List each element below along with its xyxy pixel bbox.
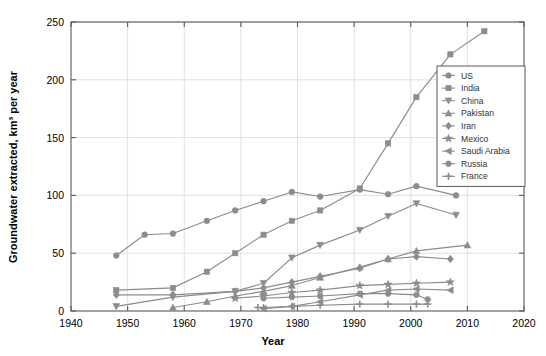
data-point-circle <box>385 191 391 197</box>
data-point-circle <box>113 253 119 259</box>
legend-label: France <box>461 171 488 181</box>
legend-label: Iran <box>461 121 476 131</box>
data-point-circle <box>232 208 238 214</box>
data-point-circle <box>414 183 420 189</box>
legend-label: Saudi Arabia <box>461 146 510 156</box>
chart-figure: 050100150200250 194019501960197019801990… <box>0 0 546 356</box>
data-point-hexagon <box>260 296 266 301</box>
legend-label: Russia <box>461 159 487 169</box>
data-point-hexagon <box>289 294 295 299</box>
data-point-hexagon <box>385 291 391 296</box>
legend-label: US <box>461 71 473 81</box>
data-point-square <box>289 218 294 223</box>
data-point-circle <box>261 198 267 204</box>
data-point-circle <box>317 194 323 200</box>
data-point-square <box>204 269 209 274</box>
x-tick-label: 2020 <box>512 317 536 329</box>
legend[interactable]: USIndiaChinaPakistanIranMexicoSaudi Arab… <box>437 66 525 186</box>
x-tick-labels: 194019501960197019801990200020102020 <box>59 317 536 329</box>
x-tick-label: 1990 <box>342 317 366 329</box>
legend-label: India <box>461 83 480 93</box>
x-tick-label: 1970 <box>229 317 253 329</box>
y-tick-label: 250 <box>46 16 64 28</box>
data-point-hexagon <box>445 161 451 166</box>
data-point-hexagon <box>413 292 419 297</box>
legend-label: China <box>461 96 484 106</box>
x-tick-label: 1960 <box>173 317 197 329</box>
data-point-square <box>448 52 453 57</box>
data-point-circle <box>142 232 148 238</box>
legend-label: Mexico <box>461 134 488 144</box>
y-tick-label: 0 <box>58 305 64 317</box>
legend-label: Pakistan <box>461 108 494 118</box>
data-point-circle <box>204 218 210 224</box>
data-point-circle <box>170 231 176 237</box>
x-tick-label: 2000 <box>399 317 423 329</box>
x-tick-label: 1980 <box>286 317 310 329</box>
y-tick-label: 200 <box>46 74 64 86</box>
data-point-square <box>482 29 487 34</box>
data-point-square <box>446 85 451 90</box>
data-point-square <box>357 186 362 191</box>
data-point-circle <box>446 73 452 79</box>
data-point-square <box>385 141 390 146</box>
data-point-square <box>261 232 266 237</box>
y-axis-title: Groundwater extracted, km³ per year <box>7 70 19 263</box>
data-point-square <box>170 285 175 290</box>
y-tick-label: 100 <box>46 189 64 201</box>
y-tick-label: 150 <box>46 132 64 144</box>
data-point-square <box>233 251 238 256</box>
data-point-circle <box>453 193 459 199</box>
x-tick-label: 2010 <box>456 317 480 329</box>
data-point-hexagon <box>357 291 363 296</box>
x-tick-label: 1940 <box>59 317 83 329</box>
data-point-circle <box>289 189 295 195</box>
y-tick-label: 50 <box>52 247 64 259</box>
data-point-square <box>318 208 323 213</box>
x-axis-title: Year <box>261 335 285 347</box>
groundwater-extraction-line-chart: 050100150200250 194019501960197019801990… <box>0 0 546 356</box>
data-point-square <box>414 95 419 100</box>
data-point-hexagon <box>317 293 323 298</box>
x-tick-label: 1950 <box>116 317 140 329</box>
